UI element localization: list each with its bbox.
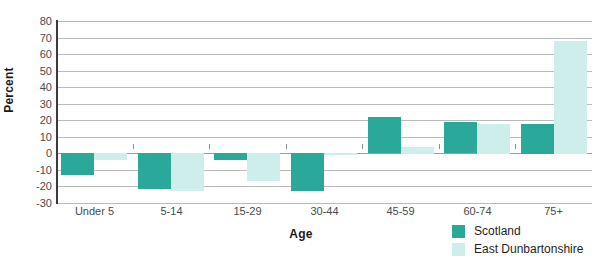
x-axis-tick-mark: [515, 144, 516, 149]
legend-label: Scotland: [474, 224, 521, 238]
plot-area: [56, 21, 592, 203]
x-axis-tick-label: 15-29: [209, 205, 286, 217]
gridline: [56, 104, 592, 105]
y-axis-tick-label: -30: [6, 198, 52, 208]
gridline: [56, 170, 592, 171]
gridline: [56, 21, 592, 22]
legend-swatch-icon: [452, 243, 465, 256]
gridline: [56, 137, 592, 138]
bar: [61, 153, 94, 175]
x-axis-tick-mark: [286, 144, 287, 149]
x-axis-tick-marks: [56, 144, 592, 150]
bar: [94, 153, 127, 160]
x-axis-tick-label: 5-14: [133, 205, 210, 217]
y-axis-tick-label: 70: [6, 33, 52, 43]
gridline: [56, 186, 592, 187]
gridline: [56, 120, 592, 121]
gridline: [56, 71, 592, 72]
y-axis-tick-label: 0: [6, 148, 52, 158]
chart-legend: ScotlandEast Dunbartonshire: [452, 222, 583, 258]
y-axis-tick-label: 60: [6, 49, 52, 59]
gridline: [56, 203, 592, 204]
legend-label: East Dunbartonshire: [474, 242, 583, 256]
bar: [324, 153, 357, 155]
x-axis-tick-mark: [133, 144, 134, 149]
y-axis-tick-label: 10: [6, 132, 52, 142]
x-axis-tick-label: Under 5: [56, 205, 133, 217]
gridline: [56, 54, 592, 55]
y-axis-tick-label: 80: [6, 16, 52, 26]
y-axis-line: [56, 20, 58, 204]
gridline: [56, 87, 592, 88]
legend-swatch-icon: [452, 225, 465, 238]
legend-item-east-dunbartonshire: East Dunbartonshire: [452, 240, 583, 258]
x-axis-tick-label: 60-74: [439, 205, 516, 217]
x-axis-tick-label: 75+: [515, 205, 592, 217]
legend-item-scotland: Scotland: [452, 222, 583, 240]
x-axis-tick-label: 45-59: [362, 205, 439, 217]
x-axis-tick-mark: [439, 144, 440, 149]
bar: [554, 41, 587, 154]
y-axis-tick-label: -20: [6, 181, 52, 191]
gridline: [56, 38, 592, 39]
x-axis-tick-mark: [209, 144, 210, 149]
x-axis-tick-mark: [362, 144, 363, 149]
bar: [214, 153, 247, 160]
y-axis-tick-label: 20: [6, 115, 52, 125]
bar: [171, 153, 204, 191]
y-axis-tick-label: 40: [6, 82, 52, 92]
grouped-bar-chart: Percent 80706050403020100-10-20-30 Under…: [0, 0, 602, 264]
bar: [291, 153, 324, 191]
x-axis-tick-labels: Under 55-1415-2930-4445-5960-7475+: [56, 205, 592, 221]
y-axis-tick-label: 30: [6, 99, 52, 109]
x-axis-tick-label: 30-44: [286, 205, 363, 217]
bar: [247, 153, 280, 181]
y-axis-tick-label: -10: [6, 165, 52, 175]
bar: [138, 153, 171, 189]
y-axis-tick-label: 50: [6, 66, 52, 76]
y-axis-tick-labels: 80706050403020100-10-20-30: [0, 21, 52, 203]
